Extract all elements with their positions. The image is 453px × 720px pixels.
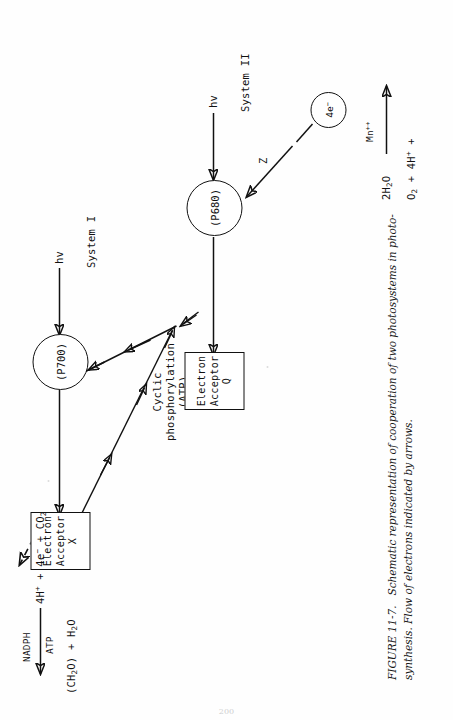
p680-label: (P680): [208, 189, 220, 227]
figure-number: FIGURE 11-7.: [386, 605, 398, 680]
atp-label: ATP: [43, 636, 55, 654]
fixation-products-text: (CH2O) + H2O: [64, 619, 76, 694]
caption-text-1: Schematic representation of cooperation …: [386, 214, 398, 595]
caption-text-2: synthesis. Flow of electrons indicated b…: [401, 419, 413, 680]
system-2-label: System II: [238, 53, 251, 112]
caption-line-1: FIGURE 11-7. Schematic representation of…: [385, 120, 401, 680]
cyclic-line2: phosphorylation: [163, 312, 176, 472]
cyclic-phosphorylation-label: Cyclic phosphorylation (ATP): [150, 312, 188, 472]
mn-catalyst-text: Mn++: [363, 122, 374, 142]
arrow-z-to-p680: [246, 146, 292, 197]
z-text: Z: [256, 157, 268, 164]
p700-label: (P700): [54, 343, 66, 381]
circled-electrons: 4e−: [310, 92, 346, 128]
acceptor-x-line2: Acceptor X: [54, 516, 78, 567]
system-2-text: System II: [238, 53, 250, 112]
electron-acceptor-q-label: Electron Acceptor Q: [195, 353, 233, 409]
line-electrons-to-z: [296, 124, 312, 142]
cyclic-line1: Cyclic: [150, 312, 163, 472]
mn-catalyst-label: Mn++: [363, 122, 375, 142]
photon-label-system-2: hv: [206, 95, 219, 108]
figure-caption: FIGURE 11-7. Schematic representation of…: [385, 120, 445, 680]
scanned-page: Electron Acceptor X (P700) hv System I C…: [0, 0, 453, 720]
caption-line-2: synthesis. Flow of electrons indicated b…: [400, 120, 416, 680]
reaction-center-p680[interactable]: (P680): [186, 180, 242, 236]
z-carrier-label: Z: [256, 157, 269, 164]
system-1-text: System I: [84, 216, 96, 268]
scan-speck: [266, 366, 268, 368]
hv-text-1: hv: [52, 251, 64, 264]
page-number-text: 200: [219, 707, 234, 716]
scan-speck: [47, 480, 49, 482]
atp-text: ATP: [43, 636, 54, 654]
fixation-reactants-text: 4H+ + 4e− + CO2: [33, 511, 45, 604]
fixation-reactants-label: 4H+ + 4e− + CO2: [33, 511, 48, 604]
electron-acceptor-q-box[interactable]: Electron Acceptor Q: [184, 352, 244, 410]
reaction-center-p700[interactable]: (P700): [32, 334, 88, 390]
acceptor-q-line2: Acceptor Q: [208, 356, 232, 407]
page-number: 200: [0, 707, 453, 716]
hv-text-2: hv: [206, 95, 218, 108]
nadph-label: NADPH: [20, 632, 32, 662]
system-1-label: System I: [84, 216, 97, 268]
electrons-text: 4e−: [323, 102, 334, 118]
photon-label-system-1: hv: [52, 251, 65, 264]
fixation-products-label: (CH2O) + H2O: [64, 619, 78, 694]
acceptor-q-line1: Electron: [195, 356, 206, 407]
nadph-text: NADPH: [20, 632, 31, 662]
